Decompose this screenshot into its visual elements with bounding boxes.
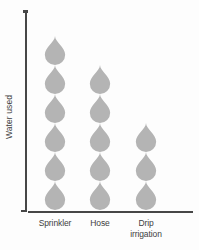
water-drop-icon	[133, 181, 159, 211]
y-axis-bottom-tick	[21, 210, 26, 212]
pictograph-column-hose	[87, 65, 113, 211]
water-drop-icon	[87, 181, 113, 211]
water-drop-icon	[42, 94, 68, 124]
water-drop-icon	[87, 123, 113, 153]
water-drop-icon	[87, 152, 113, 182]
water-drop-icon	[42, 123, 68, 153]
water-drop-icon	[42, 65, 68, 95]
water-drop-icon	[42, 36, 68, 66]
y-axis-label: Water used	[4, 95, 14, 139]
water-use-pictograph-chart: Water used SprinklerHoseDrip irrigation	[0, 0, 199, 250]
water-drop-icon	[87, 65, 113, 95]
x-axis-label-drip-irrigation: Drip irrigation	[124, 218, 168, 240]
x-axis-label-hose: Hose	[78, 218, 122, 229]
water-drop-icon	[87, 94, 113, 124]
water-drop-icon	[133, 123, 159, 153]
y-axis-top-tick	[23, 10, 28, 13]
pictograph-column-drip-irrigation	[133, 123, 159, 211]
y-axis-line	[25, 10, 27, 212]
water-drop-icon	[42, 181, 68, 211]
water-drop-icon	[42, 152, 68, 182]
water-drop-icon	[133, 152, 159, 182]
x-axis-label-sprinkler: Sprinkler	[33, 218, 77, 229]
pictograph-column-sprinkler	[42, 36, 68, 211]
